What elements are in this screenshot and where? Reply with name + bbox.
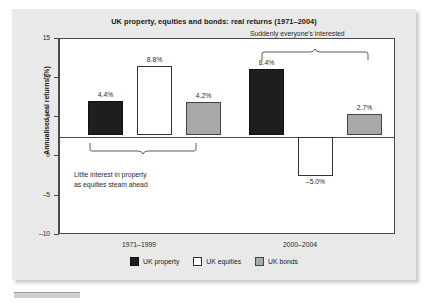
annotation-left-line2: as equities steam ahead [74, 180, 148, 190]
bar-label-equities-2000-2004: –5.0% [288, 178, 343, 185]
legend-label-property: UK property [143, 258, 179, 265]
legend-swatch-property-icon [130, 257, 139, 266]
legend-item-property[interactable]: UK property [130, 257, 179, 266]
legend-item-equities[interactable]: UK equities [193, 257, 241, 266]
category-label-second: 2000–2004 [245, 241, 355, 248]
annotation-left: Little interest in property as equities … [74, 170, 148, 189]
annotation-right: Suddenly everyone's interested [250, 29, 345, 39]
plot-area: 4.4% 8.8% 4.2% 8.4% –5.0% 2.7% Little in… [59, 38, 395, 234]
legend-label-bonds: UK bonds [268, 258, 298, 265]
bar-bonds-1971-1999[interactable] [186, 102, 221, 135]
category-label-first: 1971–1999 [84, 241, 194, 248]
bar-equities-2000-2004[interactable] [298, 137, 333, 176]
legend-item-bonds[interactable]: UK bonds [255, 257, 298, 266]
bar-label-bonds-2000-2004: 2.7% [337, 104, 392, 111]
y-label-neg10: –10 [24, 230, 50, 237]
annotation-left-line1: Little interest in property [74, 170, 148, 180]
legend-label-equities: UK equities [206, 258, 241, 265]
bar-label-equities-1971-1999: 8.8% [127, 56, 182, 63]
figure-panel: UK property, equities and bonds: real re… [12, 9, 416, 280]
bar-property-2000-2004[interactable] [249, 69, 284, 135]
bar-bonds-2000-2004[interactable] [347, 114, 382, 135]
y-tick-neg10 [54, 234, 59, 235]
legend-swatch-equities-icon [193, 257, 202, 266]
brace-right-group [260, 48, 372, 62]
y-axis-title: Annualised real returns (%) [43, 41, 50, 181]
zero-baseline [60, 137, 394, 138]
annotation-right-line1: Suddenly everyone's interested [250, 29, 345, 39]
y-label-neg5: –5 [24, 191, 50, 198]
bar-equities-1971-1999[interactable] [137, 66, 172, 135]
legend-swatch-bonds-icon [255, 257, 264, 266]
footer-strip [14, 292, 80, 298]
chart-title: UK property, equities and bonds: real re… [12, 17, 416, 26]
brace-left-group [88, 141, 200, 155]
bar-label-property-1971-1999: 4.4% [78, 91, 133, 98]
bar-property-1971-1999[interactable] [88, 101, 123, 136]
legend: UK property UK equities UK bonds [12, 257, 416, 266]
bar-label-bonds-1971-1999: 4.2% [176, 92, 231, 99]
